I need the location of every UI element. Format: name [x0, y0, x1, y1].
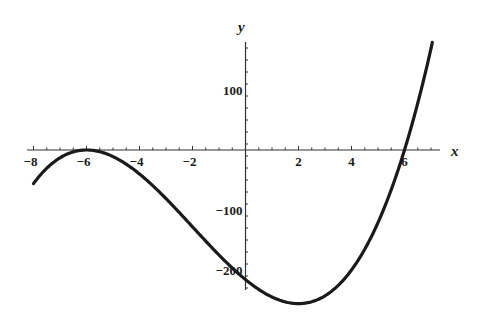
y-tick-label: 100 [223, 83, 243, 98]
x-tick-label: −2 [183, 154, 197, 169]
x-tick-label: 2 [295, 154, 302, 169]
tick-labels: −8−6−4−2246100−100−200 [24, 83, 409, 278]
y-axis-label: y [236, 19, 245, 35]
x-tick-label: −8 [24, 154, 38, 169]
y-tick-label: −100 [216, 203, 243, 218]
x-tick-label: 4 [348, 154, 355, 169]
function-plot: −8−6−4−2246100−100−200 x y [0, 0, 477, 330]
x-axis-label: x [450, 143, 459, 159]
x-tick-label: −6 [77, 154, 91, 169]
